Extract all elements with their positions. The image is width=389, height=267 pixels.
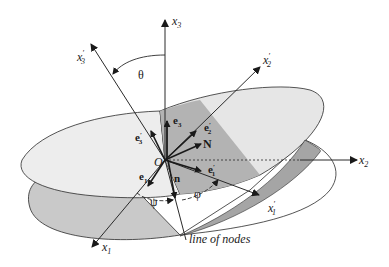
x3-prime-label: x′3 [76, 49, 85, 66]
n-label: n [174, 172, 180, 184]
line-of-nodes-label: line of nodes [189, 232, 251, 246]
theta-label: θ [138, 68, 144, 82]
phi-label: φ [194, 187, 201, 201]
x3-label: x3 [171, 14, 181, 30]
x1-prime-label: x′1 [267, 200, 276, 217]
N-label: N [203, 137, 212, 151]
euler-angles-diagram: x3 x2 x1 x′3 x′2 x′1 e3 e′3 e′2 N e′1 e1… [0, 0, 389, 267]
origin-label: O [154, 155, 163, 169]
x1-label: x1 [101, 240, 111, 256]
psi-label: ψ [150, 195, 158, 209]
x2-label: x2 [358, 153, 368, 169]
x2-prime-label: x′2 [262, 52, 271, 69]
diagram-canvas: x3 x2 x1 x′3 x′2 x′1 e3 e′3 e′2 N e′1 e1… [0, 0, 389, 267]
